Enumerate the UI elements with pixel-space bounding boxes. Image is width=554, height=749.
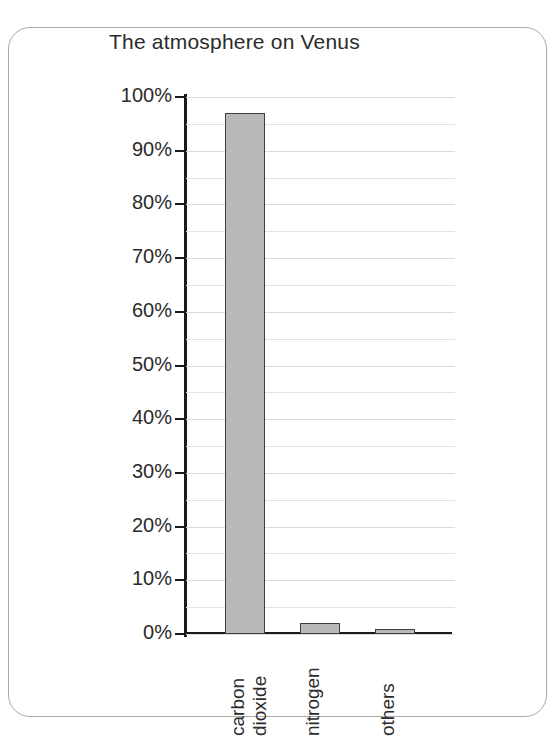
gridline-major bbox=[186, 634, 455, 635]
y-axis-label: 0% bbox=[78, 621, 172, 644]
y-axis-label: 10% bbox=[78, 567, 172, 590]
y-axis-label: 80% bbox=[78, 191, 172, 214]
y-axis-label: 90% bbox=[78, 138, 172, 161]
y-axis-tick bbox=[175, 526, 184, 528]
y-axis-label: 20% bbox=[78, 514, 172, 537]
y-axis-label: 100% bbox=[78, 84, 172, 107]
y-axis-tick bbox=[175, 311, 184, 313]
bar-carbon-dioxide bbox=[225, 113, 265, 634]
chart-title: The atmosphere on Venus bbox=[109, 30, 360, 54]
bar-others bbox=[375, 629, 415, 634]
y-axis-tick bbox=[175, 150, 184, 152]
y-axis-tick bbox=[175, 365, 184, 367]
x-axis-label-nitrogen: nitrogen bbox=[302, 667, 324, 736]
x-axis-label-carbon-dioxide: dioxide bbox=[249, 676, 271, 736]
x-axis-label-others: others bbox=[377, 683, 399, 736]
plot-area bbox=[186, 97, 455, 634]
y-axis-tick bbox=[175, 257, 184, 259]
gridline-major bbox=[186, 97, 455, 98]
y-axis-label: 30% bbox=[78, 460, 172, 483]
y-axis-tick bbox=[175, 633, 184, 635]
y-axis-tick bbox=[175, 579, 184, 581]
y-axis-tick bbox=[175, 418, 184, 420]
y-axis-tick bbox=[175, 203, 184, 205]
y-axis-tick bbox=[175, 472, 184, 474]
y-axis-label: 50% bbox=[78, 353, 172, 376]
y-axis-tick bbox=[175, 96, 184, 98]
y-axis-label: 40% bbox=[78, 406, 172, 429]
bar-nitrogen bbox=[300, 623, 340, 634]
x-axis-label-carbon-dioxide: carbon bbox=[227, 678, 249, 736]
y-axis-label: 60% bbox=[78, 299, 172, 322]
y-axis-label: 70% bbox=[78, 245, 172, 268]
